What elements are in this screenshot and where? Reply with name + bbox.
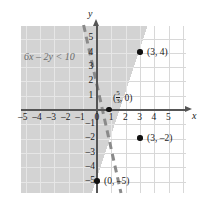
- y-tick-label: –4: [86, 161, 96, 171]
- y-tick-label: –3: [86, 147, 96, 157]
- y-tick-label: 1: [89, 90, 94, 100]
- x-tick-label: –5: [18, 112, 28, 122]
- x-axis-label: x: [192, 110, 196, 121]
- x-intercept-point: [106, 107, 111, 112]
- x-tick-label: 3: [137, 112, 142, 122]
- y-tick-label: 4: [89, 47, 94, 57]
- x-tick-label: 4: [152, 112, 157, 122]
- x-intercept-label: (53, 0): [113, 90, 132, 105]
- x-tick-label: –3: [47, 112, 57, 122]
- y-tick-label: 2: [89, 75, 94, 85]
- x-tick-label: –4: [32, 112, 42, 122]
- data-point: [137, 49, 142, 54]
- y-axis-label: y: [88, 8, 92, 19]
- x-tick-label: 1: [109, 112, 114, 122]
- y-tick-label: –1: [86, 118, 96, 128]
- x-tick-label: 2: [123, 112, 128, 122]
- x-tick-label: 5: [166, 112, 171, 122]
- y-axis-arrow-icon: [93, 19, 99, 26]
- x-axis-arrow-icon: [185, 106, 192, 112]
- y-tick-label: 3: [89, 61, 94, 71]
- y-tick-label: 5: [89, 32, 94, 42]
- data-point-label: (3, –2): [147, 133, 172, 143]
- data-point-label: (0, –5): [104, 176, 129, 186]
- data-point: [137, 135, 142, 140]
- inequality-label: 6x – 2y < 10: [24, 51, 75, 62]
- y-tick-label: –2: [86, 132, 96, 142]
- graph-figure: x y –5–4–3–2–1012345 54321–1–2–3–4–5 6x …: [0, 0, 207, 207]
- x-tick-label: 0: [94, 112, 99, 122]
- y-axis: [96, 26, 97, 193]
- intercept-paren-close: , 0): [120, 93, 133, 103]
- data-point-label: (3, 4): [147, 47, 168, 57]
- data-point: [94, 178, 99, 183]
- x-tick-label: –2: [61, 112, 71, 122]
- x-tick-label: –1: [75, 112, 85, 122]
